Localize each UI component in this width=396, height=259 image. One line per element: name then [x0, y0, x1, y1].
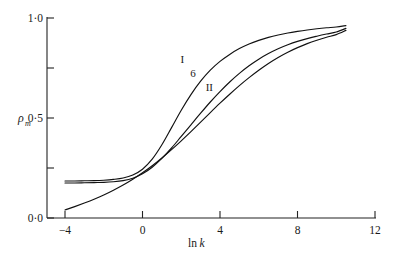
y-tick-label-0: 0·0	[28, 212, 44, 224]
y-tick-label-1: 1·0	[28, 12, 44, 24]
chart-background	[0, 0, 396, 259]
y-axis-title-base: ρ	[17, 111, 24, 125]
x-axis-title-prefix: ln	[188, 237, 197, 249]
y-axis-title-subscript: m	[25, 119, 31, 128]
x-axis-title-variable: k	[200, 237, 206, 249]
x-tick-label-8: 8	[295, 224, 301, 236]
curve-label-II: II	[206, 81, 214, 93]
x-tick-label-12: 12	[369, 224, 381, 236]
x-tick-label-0: 0	[140, 224, 146, 236]
chart-figure: 0·00·51·0 −404812 I6II ln k ρ m	[0, 0, 396, 259]
chart-canvas: 0·00·51·0 −404812 I6II ln k ρ m	[0, 0, 396, 259]
curve-label-I: I	[180, 53, 184, 65]
curve-label-6: 6	[190, 67, 196, 79]
x-tick-label-neg4: −4	[59, 224, 71, 236]
x-tick-label-4: 4	[217, 224, 223, 236]
